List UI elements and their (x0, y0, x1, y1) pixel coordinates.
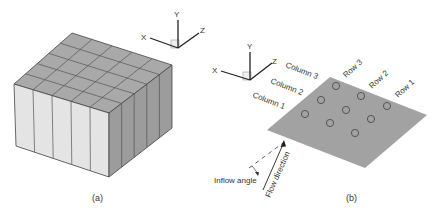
row-3-label: Row 3 (341, 57, 364, 79)
axis-triad-a: Y X Z (141, 10, 205, 48)
row-2-label: Row 2 (367, 68, 390, 90)
figure: Y X Z (a) Y X Z Column 1 Column 2 Column… (0, 0, 438, 211)
column-2-label: Column 2 (269, 76, 305, 97)
axis-x-label-b: X (212, 66, 218, 75)
axis-y-label-a: Y (174, 10, 180, 19)
axis-z-label-b: Z (272, 57, 277, 66)
axis-y-label-b: Y (247, 42, 253, 51)
axis-triad-b: Y X Z (212, 42, 277, 80)
cell-block (14, 33, 172, 177)
column-3-label: Column 3 (284, 60, 320, 81)
column-1-label: Column 1 (251, 90, 287, 111)
axis-x-label-a: X (141, 33, 147, 42)
caption-b: (b) (346, 193, 357, 203)
axis-z-label-a: Z (200, 26, 205, 35)
inflow-angle-label: Inflow angle (214, 176, 257, 185)
caption-a: (a) (92, 193, 103, 203)
flow-arrow-head-icon (281, 140, 287, 147)
row-1-label: Row 1 (393, 77, 416, 99)
